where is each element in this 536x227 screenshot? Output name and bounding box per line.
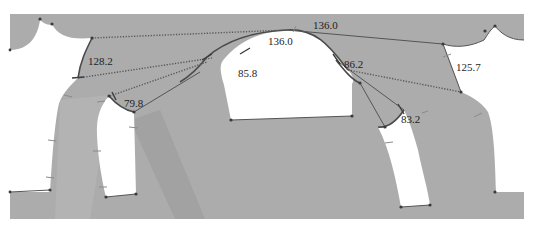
point <box>104 195 107 198</box>
point <box>493 190 496 193</box>
point <box>399 205 402 208</box>
point <box>132 110 135 113</box>
label-left-underarm: 79.8 <box>124 97 144 109</box>
point <box>38 17 41 20</box>
label-top-length: 136.0 <box>313 19 338 31</box>
point <box>9 191 12 194</box>
point <box>134 192 137 195</box>
point <box>107 94 110 97</box>
point <box>441 42 444 45</box>
tick-mark <box>72 77 84 78</box>
label-right-armhole: 125.7 <box>456 61 481 73</box>
point <box>9 49 12 52</box>
label-left-armhole: 128.2 <box>88 55 113 67</box>
point <box>428 203 431 206</box>
point <box>229 118 232 121</box>
point <box>90 36 93 39</box>
label-front-cap: 85.8 <box>238 67 258 79</box>
pattern-diagram: 136.0 136.0 128.2 125.7 85.8 86.2 79.8 8… <box>0 0 536 227</box>
label-back-cap: 86.2 <box>344 58 363 70</box>
label-cap-height: 136.0 <box>268 35 293 47</box>
point <box>50 22 53 25</box>
point <box>459 90 462 93</box>
point <box>48 188 51 191</box>
point <box>383 125 386 128</box>
point <box>358 81 361 84</box>
label-right-underarm: 83.2 <box>401 113 420 125</box>
point <box>483 29 486 32</box>
point <box>493 24 496 27</box>
point <box>350 114 353 117</box>
